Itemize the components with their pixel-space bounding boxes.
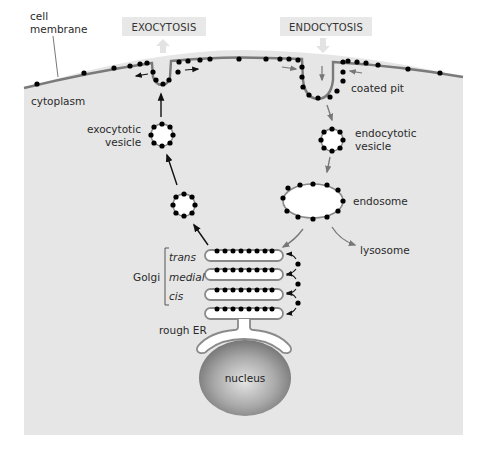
cell-membrane-leader-line [53, 36, 58, 77]
svg-text:ENDOCYTOSIS: ENDOCYTOSIS [289, 22, 363, 33]
endocytotic-vesicle [318, 126, 345, 153]
lysosome-label: lysosome [360, 244, 410, 256]
rough-er-label: rough ER [159, 324, 207, 336]
endocytotic-vesicle-label: endocytotic [355, 127, 417, 139]
endocytosis-down-arrow-icon [316, 38, 330, 53]
endosome-label: endosome [353, 195, 408, 207]
golgi-cisterna-trans [205, 249, 283, 262]
golgi-label: Golgi [133, 271, 160, 283]
exocytotic-vesicle-lower [170, 191, 197, 218]
golgi-medial-label: medial [169, 271, 205, 283]
exocytotic-vesicle-label: exocytotic [87, 123, 141, 135]
svg-text:EXOCYTOSIS: EXOCYTOSIS [132, 22, 197, 33]
golgi-cisterna-medial [205, 268, 283, 281]
secretory-endocytic-pathway-diagram: EXOCYTOSIS ENDOCYTOSIS [0, 0, 484, 455]
golgi-cisterna-cis [205, 288, 283, 301]
exocytosis-up-arrow-icon [156, 39, 170, 53]
golgi-cis-label: cis [169, 290, 184, 302]
golgi-trans-label: trans [169, 251, 197, 263]
cell-membrane-label: cell [30, 10, 48, 22]
cytoplasm-label: cytoplasm [31, 95, 85, 107]
endocytotic-vesicle-label-line2: vesicle [355, 140, 391, 152]
exocytotic-vesicle-upper [148, 121, 175, 148]
endocytosis-header: ENDOCYTOSIS [280, 17, 372, 36]
nucleus-label: nucleus [225, 372, 266, 384]
er-cisterna [205, 307, 283, 320]
cell-membrane-label-line2: membrane [30, 23, 87, 35]
exocytotic-vesicle-label-line2: vesicle [105, 136, 141, 148]
coated-pit-label: coated pit [351, 82, 404, 94]
exocytosis-header: EXOCYTOSIS [122, 17, 206, 36]
